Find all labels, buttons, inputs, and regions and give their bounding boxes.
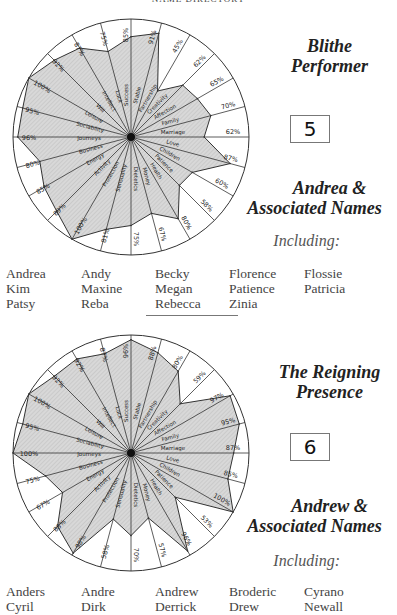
value-label: 100% bbox=[20, 450, 39, 458]
category-label: Success bbox=[123, 400, 129, 422]
value-point bbox=[192, 172, 194, 174]
value-point bbox=[179, 185, 181, 187]
value-point bbox=[182, 84, 184, 86]
value-label: 96% bbox=[122, 344, 130, 358]
value-point bbox=[28, 393, 30, 395]
names-line-2: Associated Names bbox=[232, 198, 397, 218]
value-point bbox=[62, 492, 64, 494]
names-line-1: Andrea & bbox=[262, 178, 397, 198]
divider bbox=[146, 315, 238, 316]
value-point bbox=[232, 511, 234, 513]
name-item: Patience bbox=[229, 281, 304, 296]
value-point bbox=[28, 77, 30, 79]
title-line-1: The Reigning bbox=[262, 362, 397, 382]
value-point bbox=[177, 218, 179, 220]
name-item: Anders bbox=[6, 584, 81, 599]
value-point bbox=[12, 452, 14, 454]
name-item: Patsy bbox=[6, 296, 81, 311]
value-point bbox=[22, 107, 24, 109]
name-item: Dirk bbox=[81, 599, 155, 614]
value-label: 75% bbox=[132, 232, 140, 246]
value-point bbox=[112, 518, 114, 520]
value-point bbox=[45, 475, 47, 477]
title-line-1: Blithe bbox=[262, 36, 397, 56]
value-label: 70% bbox=[132, 548, 140, 562]
name-item: Andrew bbox=[155, 584, 229, 599]
category-label: Dietetics bbox=[133, 167, 139, 191]
value-point bbox=[17, 136, 19, 138]
center-hub bbox=[127, 449, 135, 457]
value-point bbox=[157, 352, 159, 354]
section-title: Blithe Performer bbox=[262, 36, 397, 76]
value-point bbox=[130, 535, 132, 537]
including-label: Including: bbox=[200, 232, 340, 250]
name-item: Patricia bbox=[304, 281, 384, 296]
category-label: Dietetics bbox=[133, 483, 139, 507]
value-point bbox=[177, 370, 179, 372]
name-item: Kim bbox=[6, 281, 81, 296]
names-line-2: Associated Names bbox=[232, 516, 397, 536]
value-point bbox=[210, 115, 212, 117]
title-line-2: Performer bbox=[262, 56, 397, 76]
value-point bbox=[130, 339, 132, 341]
value-point bbox=[197, 98, 199, 100]
value-point bbox=[151, 213, 153, 215]
radial-chart-reigning-presence: Success96%Stable88%Partnership80%Creativ… bbox=[0, 322, 262, 584]
section-title: The Reigning Presence bbox=[262, 362, 397, 402]
category-label: Journeys bbox=[76, 135, 101, 142]
value-label: 96% bbox=[22, 134, 36, 142]
name-item: Flossie bbox=[304, 266, 384, 281]
value-point bbox=[71, 238, 73, 240]
name-item: Cyrano bbox=[304, 584, 384, 599]
value-point bbox=[233, 452, 235, 454]
value-point bbox=[174, 496, 176, 498]
name-item: Cyril bbox=[6, 599, 81, 614]
value-point bbox=[179, 403, 181, 405]
name-item: Andy bbox=[81, 266, 155, 281]
category-label: Journeys bbox=[76, 451, 101, 458]
value-point bbox=[229, 395, 231, 397]
value-label: 87% bbox=[226, 444, 240, 452]
number-badge: 6 bbox=[290, 433, 330, 461]
value-point bbox=[72, 552, 74, 554]
names-grid: Anders Andre Andrew Broderic Cyrano Cyri… bbox=[6, 584, 396, 614]
name-item: Andre bbox=[81, 584, 155, 599]
name-item: Broderic bbox=[229, 584, 304, 599]
name-item: Drew bbox=[229, 599, 304, 614]
name-item: Megan bbox=[155, 281, 229, 296]
name-item: Andrea bbox=[6, 266, 81, 281]
value-point bbox=[229, 163, 231, 165]
value-point bbox=[157, 90, 159, 92]
value-point bbox=[187, 550, 189, 552]
associated-names-heading: Andrew & Associated Names bbox=[262, 496, 397, 536]
name-item: Zinia bbox=[229, 296, 304, 311]
value-label: 62% bbox=[226, 128, 240, 136]
value-point bbox=[227, 478, 229, 480]
value-point bbox=[22, 423, 24, 425]
associated-names-heading: Andrea & Associated Names bbox=[262, 178, 397, 218]
name-item: Rebecca bbox=[155, 296, 229, 311]
value-point bbox=[158, 32, 160, 34]
radial-chart-blithe-performer: Success85%Stable91%Partnership45%Creativ… bbox=[0, 6, 262, 268]
center-hub bbox=[127, 133, 135, 141]
name-item: Newall bbox=[304, 599, 384, 614]
name-item bbox=[304, 296, 384, 311]
name-item: Derrick bbox=[155, 599, 229, 614]
name-item: Florence bbox=[229, 266, 304, 281]
category-label: Success bbox=[123, 84, 129, 106]
number-badge: 5 bbox=[290, 115, 330, 143]
title-line-2: Presence bbox=[262, 382, 397, 402]
names-line-1: Andrew & bbox=[262, 496, 397, 516]
page-header: NAME DIRECTORY bbox=[0, 0, 397, 4]
value-point bbox=[130, 36, 132, 38]
category-label: Marriage bbox=[161, 445, 186, 452]
category-label: Marriage bbox=[161, 129, 186, 136]
value-point bbox=[130, 225, 132, 227]
name-item: Reba bbox=[81, 296, 155, 311]
value-point bbox=[203, 136, 205, 138]
value-point bbox=[148, 517, 150, 519]
value-label: 85% bbox=[122, 28, 130, 42]
name-item: Maxine bbox=[81, 281, 155, 296]
value-point bbox=[238, 423, 240, 425]
name-item: Becky bbox=[155, 266, 229, 281]
